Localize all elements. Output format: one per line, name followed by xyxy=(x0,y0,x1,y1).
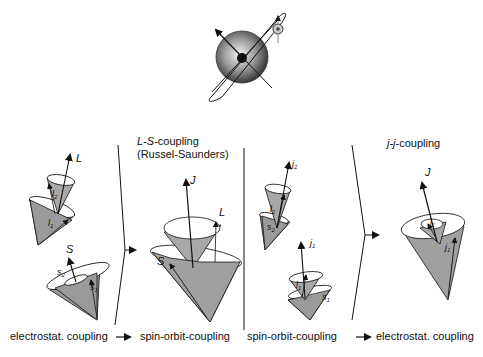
label-S2: S xyxy=(157,255,165,267)
panel-initial-right: j2 l2 s2 j1 l1 s1 xyxy=(258,159,332,320)
panel-dividers xyxy=(115,145,378,330)
panel-jj-coupling: J j2 j1 xyxy=(400,166,467,300)
panel-ls-coupling: J L S xyxy=(149,174,243,322)
label-j1: j1 xyxy=(309,238,315,249)
caption-right-from: spin-orbit-coupling xyxy=(247,330,337,342)
caption-right-to: electrostat. coupling xyxy=(376,330,474,342)
atom-figure xyxy=(209,13,286,101)
label-L2: L xyxy=(219,206,225,218)
caption-left-from: electrostat. coupling xyxy=(10,330,108,342)
jj-coupling-title: j-j-coupling xyxy=(387,137,440,150)
nucleus xyxy=(237,53,247,63)
label-s1b: s1 xyxy=(322,292,330,303)
label-j2: j2 xyxy=(291,159,298,170)
label-L: L xyxy=(76,152,82,164)
label-J: J xyxy=(189,174,196,186)
ls-coupling-title: L-S-coupling (Russel-Saunders) xyxy=(137,135,229,161)
coupling-diagram: L l2 l1 S s2 s1 J L S xyxy=(0,0,483,357)
caption-left-to: spin-orbit-coupling xyxy=(140,330,230,342)
ls-coupling-subtitle: (Russel-Saunders) xyxy=(137,148,229,160)
panel-initial-left: L l2 l1 S s2 s1 xyxy=(27,152,112,320)
label-S: S xyxy=(66,243,74,255)
label-J2: J xyxy=(424,166,431,178)
label-s2: s2 xyxy=(57,267,66,278)
